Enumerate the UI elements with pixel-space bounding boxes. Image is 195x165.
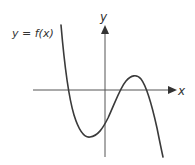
y-axis-arrow-icon bbox=[101, 25, 109, 34]
function-label: y = f(x) bbox=[11, 27, 54, 40]
y-axis-label: y bbox=[99, 10, 108, 24]
x-axis-label: x bbox=[177, 84, 186, 98]
x-axis-arrow-icon bbox=[168, 86, 177, 94]
function-curve bbox=[61, 25, 163, 157]
function-graph: y = f(x) y x bbox=[0, 0, 195, 165]
